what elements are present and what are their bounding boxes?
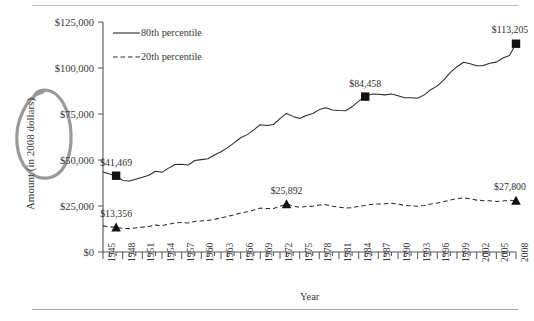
y-axis-tick-label: $100,000	[30, 63, 94, 74]
x-axis-tick-label: 1978	[323, 243, 333, 262]
series-line-20th-percentile	[103, 198, 516, 229]
y-axis-tick-label: $25,000	[30, 201, 94, 212]
y-axis-tick-label: $75,000	[30, 109, 94, 120]
x-axis-tick-label: 1990	[402, 243, 412, 262]
y-axis-tick-label: $125,000	[30, 17, 94, 28]
marker-square	[361, 92, 369, 100]
label-80th-1985: $84,458	[349, 78, 381, 89]
data-point-markers	[111, 40, 520, 232]
x-axis-tick-label: 1945	[107, 243, 117, 262]
marker-square	[112, 171, 120, 179]
y-axis-tick-label: $0	[30, 247, 94, 258]
x-axis-tick-label: 1963	[225, 243, 235, 262]
label-80th-1947: $41,469	[100, 157, 132, 168]
marker-square	[512, 40, 520, 48]
x-axis-tick-label: 1975	[304, 243, 314, 262]
y-axis-tick-label: $50,000	[30, 155, 94, 166]
chart-figure: 80th percentile 20th percentile Year Amo…	[0, 0, 534, 321]
x-axis-tick-label: 1984	[363, 243, 373, 262]
legend	[113, 33, 140, 57]
legend-label-20th-percentile: 20th percentile	[141, 51, 202, 62]
x-axis-tick-label: 1981	[343, 243, 353, 262]
x-axis-tick-label: 1999	[461, 243, 471, 262]
x-axis-tick-label: 1993	[422, 243, 432, 262]
label-20th-1947: $13,356	[100, 208, 132, 219]
label-80th-2008: $113,205	[492, 24, 528, 35]
x-axis-tick-label: 1972	[284, 243, 294, 262]
x-axis-tick-label: 2008	[520, 243, 530, 262]
x-axis-tick-label: 1957	[186, 243, 196, 262]
x-axis-tick-label: 1960	[205, 243, 215, 262]
series-line-80th-percentile	[103, 44, 516, 181]
x-axis-tick-label: 2002	[481, 243, 491, 262]
x-axis-tick-label: 1948	[127, 243, 137, 262]
x-axis-tick-label: 1987	[382, 243, 392, 262]
x-axis-tick-label: 2005	[500, 243, 510, 262]
label-20th-1973: $25,892	[271, 185, 303, 196]
x-axis-tick-label: 1969	[264, 243, 274, 262]
label-20th-2008: $27,800	[494, 181, 526, 192]
x-axis-tick-label: 1996	[441, 243, 451, 262]
x-axis-tick-label: 1951	[146, 243, 156, 262]
legend-label-80th-percentile: 80th percentile	[141, 27, 202, 38]
x-axis-tick-label: 1954	[166, 243, 176, 262]
marker-triangle	[282, 199, 292, 208]
x-axis-title: Year	[300, 291, 319, 302]
x-axis-tick-label: 1966	[245, 243, 255, 262]
